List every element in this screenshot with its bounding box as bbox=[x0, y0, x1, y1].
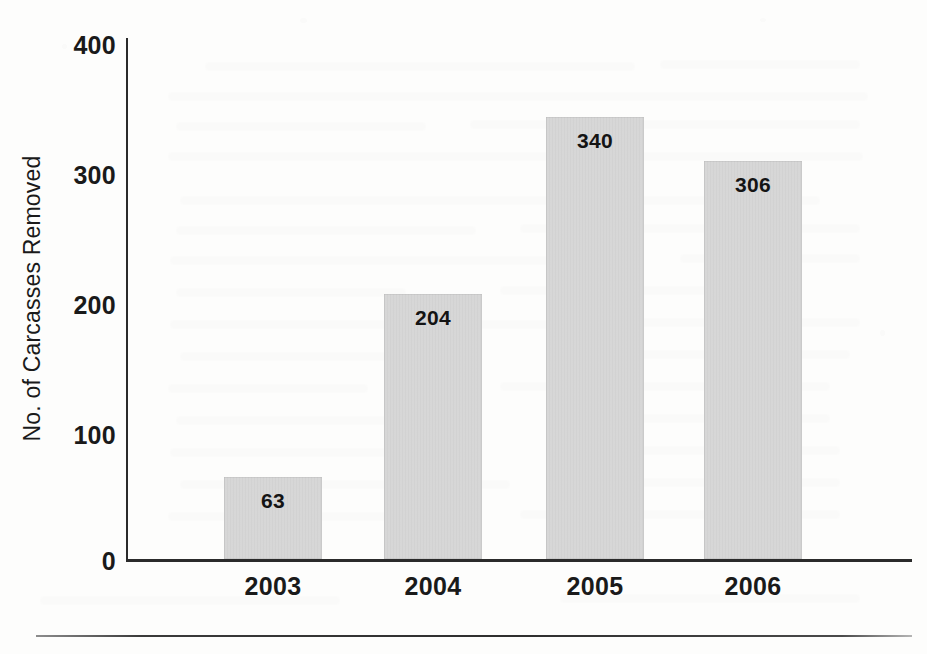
y-tick-label-400: 400 bbox=[0, 30, 116, 60]
x-category-2004: 2004 bbox=[384, 572, 482, 601]
x-category-2006: 2006 bbox=[704, 572, 802, 601]
bar-2003: 63 bbox=[224, 477, 322, 559]
y-tick-label-100: 100 bbox=[0, 420, 116, 450]
bar-value-2003: 63 bbox=[224, 489, 322, 513]
bar-value-2005: 340 bbox=[546, 129, 644, 153]
scanned-page: No. of Carcasses Removed 400 300 200 100… bbox=[0, 0, 927, 654]
y-tick-label-300: 300 bbox=[0, 160, 116, 190]
bar-2004: 204 bbox=[384, 294, 482, 559]
x-axis-line bbox=[126, 559, 912, 562]
page-footer-rule bbox=[36, 635, 912, 637]
y-tick-label-0: 0 bbox=[0, 546, 116, 576]
y-axis-line bbox=[126, 38, 128, 561]
y-tick-0: 0 bbox=[0, 546, 116, 576]
y-tick-300: 300 bbox=[0, 160, 116, 190]
bar-2005: 340 bbox=[546, 117, 644, 559]
y-tick-100: 100 bbox=[0, 420, 116, 450]
bar-value-2004: 204 bbox=[384, 306, 482, 330]
bar-value-2006: 306 bbox=[704, 173, 802, 197]
x-category-2005: 2005 bbox=[546, 572, 644, 601]
bar-chart: No. of Carcasses Removed 400 300 200 100… bbox=[0, 0, 927, 654]
y-tick-400: 400 bbox=[0, 30, 116, 60]
y-tick-200: 200 bbox=[0, 290, 116, 320]
x-category-2003: 2003 bbox=[224, 572, 322, 601]
bar-2006: 306 bbox=[704, 161, 802, 559]
y-tick-label-200: 200 bbox=[0, 290, 116, 320]
